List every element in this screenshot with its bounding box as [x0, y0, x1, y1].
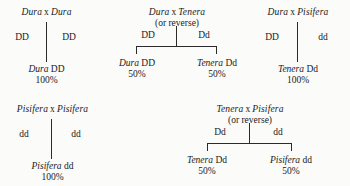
cross-title-parent-left: Tenera	[216, 104, 243, 114]
offspring-percent: 50%	[258, 166, 324, 177]
parent-genotype-right: dd	[58, 128, 94, 140]
cross-dura-x-dura: DuraxDura DD DD Dura DD 100%	[0, 7, 93, 72]
parent-genotype-right: Dd	[186, 29, 222, 41]
cross-title-parent-right: Dura	[51, 7, 72, 17]
offspring-name: Dura	[119, 58, 139, 68]
cross-subtitle: (or reverse)	[190, 115, 310, 126]
offspring-row: Dura DD 50% Tenera Dd 50%	[122, 51, 232, 75]
offspring-percent: 50%	[174, 166, 240, 177]
parent-genotype-right: dd	[305, 31, 341, 43]
offspring-item: Pisifera dd 50%	[258, 155, 324, 177]
cross-title: DuraxPisifera	[248, 7, 348, 18]
offspring-item: Tenera Dd 50%	[184, 58, 250, 80]
offspring-genotype: Dd	[225, 58, 237, 68]
genetics-cross-diagram: DuraxDura DD DD Dura DD 100% DuraxTenera…	[0, 0, 350, 186]
cross-tenera-x-pisifera: TeneraxPisifera (or reverse) Dd dd Tener…	[190, 104, 310, 172]
offspring-row: Dura DD 100%	[0, 48, 93, 72]
cross-title-parent-right: Tenera	[178, 7, 205, 17]
cross-title: TeneraxPisifera	[190, 104, 310, 115]
offspring-genotype: dd	[302, 155, 312, 165]
connector-stem	[176, 26, 177, 46]
offspring-genotype: DD	[141, 58, 155, 68]
parent-genotypes: DD DD	[0, 18, 93, 48]
cross-dura-x-tenera: DuraxTenera (or reverse) DD Dd Dura DD 5…	[122, 7, 232, 75]
cross-title-parent-right: Pisifera	[252, 104, 283, 114]
cross-symbol: x	[243, 104, 252, 114]
offspring-name: Tenera	[187, 155, 213, 165]
parent-genotype-right: DD	[51, 31, 87, 43]
cross-title-parent-right: Pisifera	[57, 104, 88, 114]
offspring-percent: 50%	[104, 69, 170, 80]
offspring-item: Tenera Dd 100%	[248, 64, 348, 86]
cross-title: PisiferaxPisifera	[0, 104, 105, 115]
offspring-item: Pisifera dd 100%	[0, 161, 105, 183]
parent-genotype-left: DD	[254, 31, 290, 43]
cross-title-parent-left: Dura	[268, 7, 289, 17]
offspring-percent: 100%	[248, 75, 348, 86]
connector-crossbar	[136, 46, 217, 47]
offspring-row: Pisifera dd 100%	[0, 145, 105, 169]
offspring-percent: 100%	[0, 172, 105, 183]
offspring-percent: 50%	[184, 69, 250, 80]
offspring-item: Tenera Dd 50%	[174, 155, 240, 177]
offspring-item: Dura DD 100%	[0, 64, 93, 86]
offspring-genotype: Dd	[215, 155, 227, 165]
parent-genotype-left: DD	[130, 29, 166, 41]
cross-subtitle: (or reverse)	[122, 18, 232, 29]
parent-genotypes: DD Dd	[122, 29, 232, 51]
cross-symbol: x	[42, 7, 51, 17]
parent-genotype-left: dd	[6, 128, 42, 140]
cross-title: DuraxDura	[0, 7, 93, 18]
parent-genotype-left: Dd	[202, 126, 238, 138]
offspring-genotype: DD	[51, 64, 65, 74]
connector-stem	[249, 123, 250, 143]
cross-title-parent-right: Pisifera	[297, 7, 328, 17]
cross-dura-x-pisifera: DuraxPisifera DD dd Tenera Dd 100%	[248, 7, 348, 72]
connector-crossbar	[207, 143, 292, 144]
offspring-row: Tenera Dd 50% Pisifera dd 50%	[190, 148, 310, 172]
cross-title-parent-left: Dura	[149, 7, 170, 17]
offspring-genotype: Dd	[306, 64, 318, 74]
cross-title-parent-left: Pisifera	[17, 104, 48, 114]
cross-symbol: x	[288, 7, 297, 17]
offspring-percent: 100%	[0, 75, 93, 86]
offspring-name: Tenera	[197, 58, 223, 68]
parent-genotype-left: DD	[4, 31, 40, 43]
cross-title: DuraxTenera	[122, 7, 232, 18]
cross-pisifera-x-pisifera: PisiferaxPisifera dd dd Pisifera dd 100%	[0, 104, 105, 169]
offspring-row: Tenera Dd 100%	[248, 48, 348, 72]
parent-genotypes: Dd dd	[190, 126, 310, 148]
offspring-name: Pisifera	[270, 155, 300, 165]
offspring-item: Dura DD 50%	[104, 58, 170, 80]
cross-title-parent-left: Dura	[21, 7, 42, 17]
offspring-name: Pisifera	[32, 161, 62, 171]
offspring-genotype: dd	[64, 161, 74, 171]
cross-symbol: x	[169, 7, 178, 17]
offspring-name: Tenera	[278, 64, 304, 74]
parent-genotypes: DD dd	[248, 18, 348, 48]
cross-symbol: x	[48, 104, 57, 114]
parent-genotypes: dd dd	[0, 115, 105, 145]
offspring-name: Dura	[28, 64, 48, 74]
parent-genotype-right: dd	[260, 126, 296, 138]
